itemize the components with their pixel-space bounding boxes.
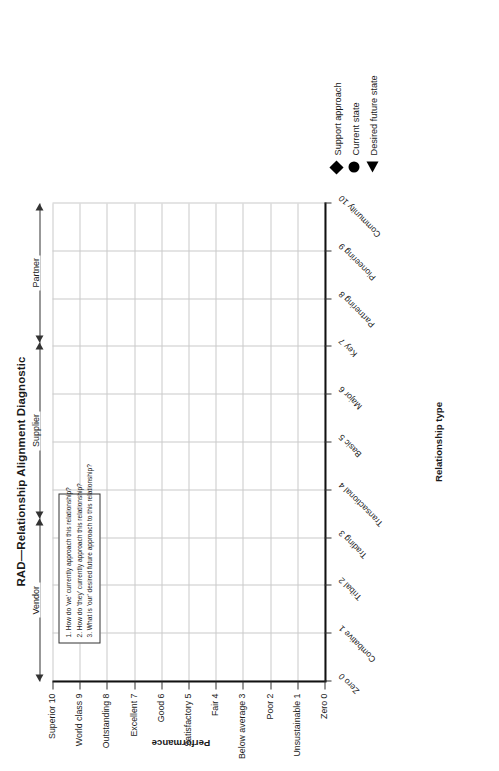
x-axis-tick [324, 489, 331, 490]
y-axis-tick-label: Good 6 [155, 693, 165, 771]
y-axis-title: Performance [91, 738, 271, 749]
y-axis-tick-label: Superior 10 [46, 693, 56, 771]
arrow-right-icon [35, 203, 43, 210]
legend: Support approach Current state Desired f… [330, 75, 385, 175]
triangle-marker-icon [366, 159, 380, 175]
legend-label: Support approach [332, 82, 342, 155]
question-item: 3. What is 'our' desired future approach… [84, 499, 95, 637]
gridline-horizontal [161, 203, 162, 681]
segment-arrow-vendor: Vendor [33, 518, 47, 681]
x-axis-tick [324, 393, 331, 394]
y-axis-tick-label: Outstanding 8 [100, 693, 110, 771]
y-axis-tick-label: Poor 2 [264, 693, 274, 771]
gridline-horizontal [188, 203, 189, 681]
y-axis-tick-label: Unsustainable 1 [291, 693, 301, 771]
y-axis-tick [161, 681, 162, 689]
circle-marker-icon [348, 159, 361, 175]
question-item: 1. How do 'we' currently approach this r… [63, 499, 74, 637]
diamond-marker-icon [330, 159, 343, 175]
legend-item-support-approach: Support approach [330, 75, 343, 175]
y-axis-tick [79, 681, 80, 689]
x-axis-tick [324, 202, 331, 203]
y-axis-tick [215, 681, 216, 689]
y-axis-tick [242, 681, 243, 689]
x-axis-tick [324, 298, 331, 299]
x-axis-tick [324, 250, 331, 251]
x-axis-tick [324, 632, 331, 633]
legend-item-desired-future-state: Desired future state [366, 75, 380, 175]
x-axis-tick [324, 345, 331, 346]
y-axis-tick [188, 681, 189, 689]
gridline-horizontal [52, 203, 53, 681]
x-axis-tick [324, 537, 331, 538]
gridline-horizontal [134, 203, 135, 681]
y-axis-tick-label: World class 9 [73, 693, 83, 771]
segment-label-partner: Partner [30, 255, 40, 291]
page-title: RAD—Relationship Alignment Diagnostic [14, 171, 26, 771]
question-box: 1. How do 'we' currently approach this r… [58, 493, 100, 643]
gridline-horizontal [270, 203, 271, 681]
question-item: 2. How do 'they' currently approach this… [74, 499, 85, 637]
gridline-horizontal [215, 203, 216, 681]
legend-label: Current state [350, 102, 360, 155]
gridline-horizontal [242, 203, 243, 681]
x-axis-title: Relationship type [432, 202, 443, 681]
y-axis-tick [270, 681, 271, 689]
y-axis-tick [106, 681, 107, 689]
y-axis-tick [52, 681, 53, 689]
gridline-horizontal [106, 203, 107, 681]
legend-item-current-state: Current state [348, 75, 361, 175]
x-axis-tick [324, 584, 331, 585]
segment-arrow-partner: Partner [33, 203, 47, 342]
y-axis-tick [134, 681, 135, 689]
segment-label-vendor: Vendor [30, 582, 40, 617]
figure-stage: RAD—Relationship Alignment Diagnostic Ve… [0, 0, 499, 771]
arrow-left-icon [35, 511, 43, 518]
segment-arrow-supplier: Supplier [33, 342, 47, 519]
y-axis-tick-label: Below average 3 [236, 693, 246, 771]
legend-label: Desired future state [368, 75, 378, 155]
y-axis-tick-label: Satisfactory 5 [182, 693, 192, 771]
arrow-right-icon [35, 518, 43, 525]
arrow-right-icon [35, 342, 43, 349]
y-axis-tick-label: Zero 0 [318, 693, 328, 771]
y-axis-tick [324, 681, 325, 689]
y-axis-tick-label: Fair 4 [209, 693, 219, 771]
arrow-left-icon [35, 335, 43, 342]
x-axis-tick [324, 441, 331, 442]
y-axis-tick-label: Excellent 7 [128, 693, 138, 771]
y-axis-tick [297, 681, 298, 689]
arrow-left-icon [35, 674, 43, 681]
segment-label-supplier: Supplier [30, 411, 40, 450]
